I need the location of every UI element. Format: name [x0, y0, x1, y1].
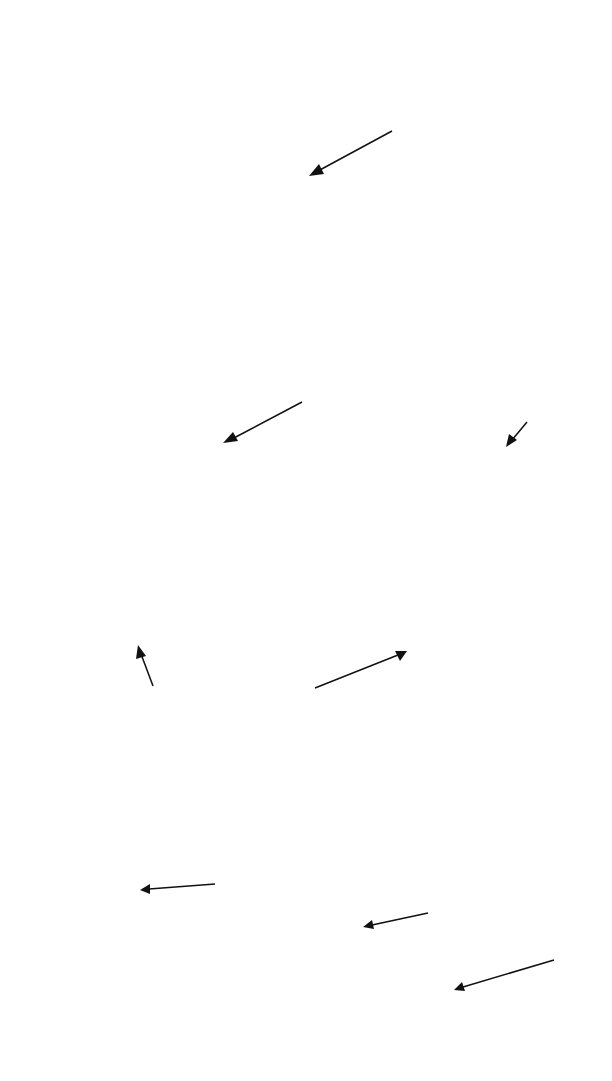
- arrow-icon: [506, 422, 527, 447]
- arrow-icon: [223, 402, 302, 443]
- panel-d: [0, 0, 554, 991]
- panel-b: [0, 0, 527, 447]
- arrow-icon: [363, 913, 428, 929]
- epr-spectra-figure: [0, 0, 612, 1081]
- arrow-icon: [136, 645, 153, 686]
- arrow-icon: [140, 884, 215, 894]
- arrow-icon: [454, 960, 554, 991]
- panel-c: [0, 0, 407, 688]
- arrow-icon: [309, 131, 392, 176]
- arrow-icon: [315, 651, 407, 688]
- panel-a: [0, 0, 392, 176]
